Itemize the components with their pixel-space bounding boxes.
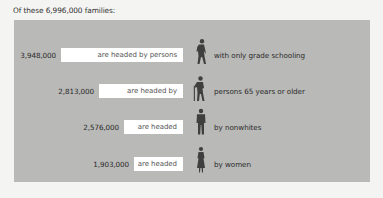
count-value: 2,576,000	[14, 123, 119, 132]
bar-box: are headed	[134, 157, 183, 171]
count-value: 1,903,000	[14, 160, 129, 169]
elderly-man-with-cane-icon	[192, 75, 208, 103]
row-grade-schooling: 3,948,000 are headed by persons with onl…	[14, 48, 370, 64]
families-panel: 3,948,000 are headed by persons with onl…	[14, 20, 370, 182]
count-value: 3,948,000	[14, 51, 56, 60]
bar-box: are headed	[124, 120, 183, 134]
row-description: by nonwhites	[214, 123, 261, 132]
standing-woman-icon	[193, 146, 209, 174]
standing-man-icon	[193, 108, 209, 136]
bar-box: are headed by	[99, 84, 183, 98]
walking-man-icon	[193, 38, 209, 66]
row-description: by women	[214, 160, 251, 169]
row-women: 1,903,000 are headed by women	[14, 157, 370, 173]
row-description: persons 65 years or older	[214, 87, 305, 96]
page-title: Of these 6,996,000 families:	[13, 6, 115, 15]
row-nonwhites: 2,576,000 are headed by nonwhites	[14, 120, 370, 136]
count-value: 2,813,000	[14, 87, 94, 96]
row-65-or-older: 2,813,000 are headed by persons 65 years…	[14, 84, 370, 100]
bar-box: are headed by persons	[61, 48, 183, 62]
row-description: with only grade schooling	[214, 51, 305, 60]
